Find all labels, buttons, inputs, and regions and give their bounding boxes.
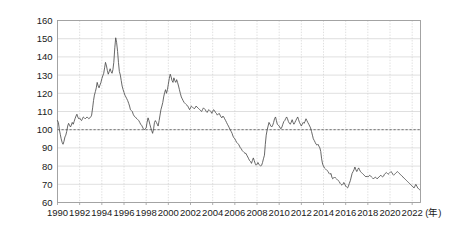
y-tick-label: 80 xyxy=(42,161,53,172)
x-tick-label: 2010 xyxy=(269,207,290,218)
line-chart: 60708090100110120130140150160 1990199219… xyxy=(0,0,449,230)
x-tick-label: 1994 xyxy=(91,207,112,218)
y-tick-label: 120 xyxy=(37,88,53,99)
y-tick-label: 90 xyxy=(42,142,53,153)
chart-container: 60708090100110120130140150160 1990199219… xyxy=(0,0,449,230)
x-tick-label: 2006 xyxy=(224,207,245,218)
x-tick-label: 2002 xyxy=(180,207,201,218)
x-tick-label: 1990 xyxy=(47,207,68,218)
x-tick-label: 2016 xyxy=(335,207,356,218)
data-series-line xyxy=(58,38,420,190)
y-tick-label: 140 xyxy=(37,51,53,62)
x-tick-label: 1992 xyxy=(69,207,90,218)
y-tick-label: 100 xyxy=(37,124,53,135)
x-axis-labels: 1990199219941996199820002002200420062008… xyxy=(47,207,423,218)
x-axis-unit-label: (年) xyxy=(425,207,441,218)
x-tick-label: 2004 xyxy=(202,207,223,218)
x-tick-label: 2012 xyxy=(291,207,312,218)
x-tick-label: 2008 xyxy=(246,207,267,218)
y-tick-label: 150 xyxy=(37,33,53,44)
y-axis-labels: 60708090100110120130140150160 xyxy=(37,15,53,208)
x-tick-label: 2014 xyxy=(313,207,334,218)
x-tick-label: 1996 xyxy=(113,207,134,218)
x-tick-label: 2020 xyxy=(379,207,400,218)
y-tick-label: 110 xyxy=(37,106,52,117)
y-tick-label: 70 xyxy=(42,179,53,190)
y-tick-label: 160 xyxy=(37,15,53,26)
x-tick-label: 2022 xyxy=(402,207,423,218)
y-tick-label: 130 xyxy=(37,70,53,81)
x-tick-label: 2000 xyxy=(158,207,179,218)
x-tick-label: 1998 xyxy=(136,207,157,218)
grid-horizontal xyxy=(58,39,421,185)
x-tick-label: 2018 xyxy=(357,207,378,218)
